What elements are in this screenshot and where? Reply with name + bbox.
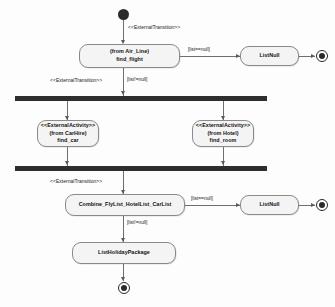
arrowhead-package-to-final (121, 277, 125, 281)
edge-find-flight-to-listnull (180, 56, 240, 57)
activity-find-room-package: (from Hotel) (207, 130, 238, 138)
arrowhead-find-room-to-join (221, 161, 225, 165)
activity-list-null-bottom[interactable]: ListNull (240, 195, 299, 215)
activity-combine-lists[interactable]: Combine_FlyList_HotelList_CarList (65, 194, 185, 216)
final-state-end[interactable] (118, 282, 130, 294)
activity-find-flight-line1: (from Air_Line) (110, 48, 149, 56)
edge-label-combine-guard-notnull: [list!=null] (127, 220, 147, 225)
activity-list-holiday-package-label: ListHolidayPackage (98, 249, 150, 257)
activity-list-null-bottom-label: ListNull (259, 201, 279, 209)
edge-label-start-transition: <<ExternalTransition>> (128, 24, 180, 30)
join-bar (15, 166, 267, 171)
edge-label-find-flight-to-fork-transition: <<ExternalTransition>> (50, 77, 102, 83)
edge-label-join-to-combine-transition: <<ExternalTransition>> (50, 178, 102, 184)
edge-combine-to-listnull (185, 205, 240, 206)
activity-find-room-name: find_room (210, 137, 237, 145)
activity-diagram-canvas: <<ExternalTransition>> (from Air_Line) f… (0, 0, 335, 307)
fork-bar (15, 96, 267, 101)
arrowhead-listnull-top-to-final (311, 54, 315, 58)
activity-find-car-package: (from CarHire) (49, 130, 86, 138)
activity-find-flight[interactable]: (from Air_Line) find_flight (79, 44, 180, 68)
activity-find-room-stereotype: <<ExternalActivity>> (196, 122, 250, 130)
edge-label-combine-guard-null: [list==null] (191, 196, 213, 201)
final-state-top-right[interactable] (316, 50, 328, 62)
activity-list-null-top[interactable]: ListNull (240, 46, 299, 66)
activity-find-car-name: find_car (57, 137, 78, 145)
edge-label-find-flight-guard-notnull: [list!=null] (127, 77, 147, 82)
arrowhead-find-flight-to-fork (121, 91, 125, 95)
arrowhead-find-car-to-join (65, 161, 69, 165)
activity-find-car[interactable]: <<ExternalActivity>> (from CarHire) find… (37, 120, 99, 147)
activity-list-null-top-label: ListNull (259, 52, 279, 60)
edge-label-find-flight-guard-null: [list==null] (188, 47, 210, 52)
arrowhead-listnull-bottom-to-final (311, 203, 315, 207)
final-state-bottom-right[interactable] (316, 199, 328, 211)
activity-find-car-stereotype: <<ExternalActivity>> (41, 122, 95, 130)
activity-find-room[interactable]: <<ExternalActivity>> (from Hotel) find_r… (192, 120, 254, 147)
initial-state-node[interactable] (118, 9, 129, 20)
activity-find-flight-line2: find_flight (116, 56, 143, 64)
activity-list-holiday-package[interactable]: ListHolidayPackage (72, 242, 176, 264)
activity-combine-lists-label: Combine_FlyList_HotelList_CarList (79, 201, 172, 209)
